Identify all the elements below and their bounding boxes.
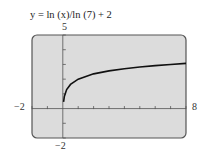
plot-area <box>0 0 207 162</box>
plot-frame <box>32 35 186 138</box>
